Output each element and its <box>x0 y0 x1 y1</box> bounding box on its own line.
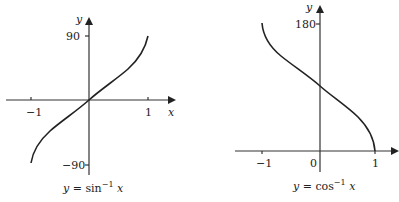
x-tick-label: −1 <box>26 106 42 119</box>
figure: −1 1 x y 90 −90 y = sin−1 x −1 0 1 y 180… <box>0 0 399 202</box>
y-axis-label: y <box>305 1 313 14</box>
x-axis-label: x <box>168 106 175 119</box>
y-axis-label: y <box>75 13 83 26</box>
y-axis-arrow-icon <box>85 17 93 25</box>
x-axis-arrow-icon <box>391 147 399 155</box>
y-tick-label: −90 <box>62 159 85 172</box>
x-axis-arrow-icon <box>168 96 176 104</box>
x-tick-label: 1 <box>145 106 152 119</box>
x-tick-label: 0 <box>310 157 317 170</box>
y-axis-arrow-icon <box>316 5 324 13</box>
arccos-caption: y = cos−1 x <box>292 178 356 193</box>
y-tick-label: 90 <box>66 30 80 43</box>
x-tick-label: 1 <box>372 157 379 170</box>
arccos-curve <box>262 23 375 151</box>
y-tick-label: 180 <box>295 18 316 31</box>
arcsin-caption: y = sin−1 x <box>62 180 124 195</box>
x-tick-label: −1 <box>256 157 272 170</box>
arccos-chart: −1 0 1 y 180 y = cos−1 x <box>235 1 399 193</box>
arcsin-chart: −1 1 x y 90 −90 y = sin−1 x <box>6 13 176 195</box>
